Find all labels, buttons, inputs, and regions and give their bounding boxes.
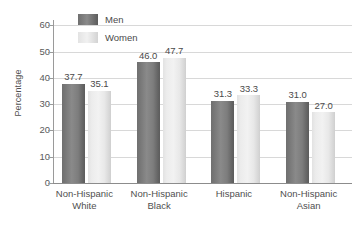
y-axis-tick-label: 20 bbox=[26, 125, 50, 135]
legend-item[interactable]: Women bbox=[78, 30, 168, 45]
bar-men[interactable]: 37.7 bbox=[62, 84, 85, 183]
legend-item[interactable]: Men bbox=[78, 12, 168, 27]
bar-men[interactable]: 46.0 bbox=[137, 62, 160, 183]
category-label-line: Hispanic bbox=[197, 188, 272, 200]
legend-label: Women bbox=[105, 32, 138, 43]
bar-value-label: 27.0 bbox=[314, 101, 333, 111]
legend-swatch-women bbox=[78, 32, 98, 43]
bar-value-label: 46.0 bbox=[139, 51, 158, 61]
category-label-line: Non-Hispanic bbox=[47, 188, 122, 200]
bar-value-label: 35.1 bbox=[90, 79, 109, 89]
y-axis-tick-label: 60 bbox=[26, 20, 50, 30]
category-label-line: Non-Hispanic bbox=[122, 188, 197, 200]
x-axis-category-label: Non-HispanicWhite bbox=[47, 188, 122, 212]
bar-women[interactable]: 33.3 bbox=[237, 95, 260, 183]
y-axis-tick-label: 40 bbox=[26, 73, 50, 83]
bar-men[interactable]: 31.0 bbox=[286, 102, 309, 184]
y-axis-tick-label: 30 bbox=[26, 99, 50, 109]
bar-group: 31.027.0 bbox=[286, 20, 335, 183]
x-axis-category-label: Hispanic bbox=[197, 188, 272, 200]
y-axis-tick-label: 0 bbox=[26, 178, 50, 188]
bar-group: 31.333.3 bbox=[211, 20, 260, 183]
bar-women[interactable]: 35.1 bbox=[88, 91, 111, 183]
legend-swatch-men bbox=[78, 14, 98, 25]
legend-label: Men bbox=[105, 14, 123, 25]
x-axis-category-label: Non-HispanicBlack bbox=[122, 188, 197, 212]
category-label-line: Black bbox=[122, 200, 197, 212]
y-axis-title: Percentage bbox=[13, 48, 23, 138]
category-label-line: Asian bbox=[271, 200, 346, 212]
bar-women[interactable]: 47.7 bbox=[163, 58, 186, 183]
chart-legend: MenWomen bbox=[78, 12, 168, 48]
x-axis-baseline bbox=[53, 183, 352, 184]
bar-women[interactable]: 27.0 bbox=[312, 112, 335, 183]
y-axis-tick-label: 50 bbox=[26, 47, 50, 57]
bar-value-label: 31.3 bbox=[214, 89, 233, 99]
bar-value-label: 31.0 bbox=[288, 90, 307, 100]
category-label-line: Non-Hispanic bbox=[271, 188, 346, 200]
y-axis-tick-label: 10 bbox=[26, 152, 50, 162]
bar-value-label: 33.3 bbox=[240, 84, 259, 94]
category-label-line: White bbox=[47, 200, 122, 212]
bar-chart: Percentage 0102030405060 37.735.146.047.… bbox=[0, 0, 362, 231]
x-axis-category-label: Non-HispanicAsian bbox=[271, 188, 346, 212]
bar-men[interactable]: 31.3 bbox=[211, 101, 234, 183]
bar-value-label: 37.7 bbox=[64, 72, 83, 82]
